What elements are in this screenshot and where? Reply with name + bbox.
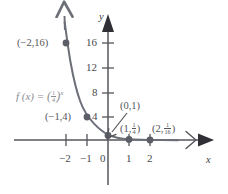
label-point-1-quarter: (1,14) bbox=[120, 122, 140, 135]
y-tick-label-4: 4 bbox=[92, 111, 98, 122]
x-tick-label-0: 0 bbox=[100, 153, 106, 164]
fraction-one-sixteenth: 116 bbox=[164, 122, 171, 135]
x-tick-label-neg1: −1 bbox=[80, 153, 92, 164]
label-point-2-suffix: ) bbox=[172, 123, 176, 134]
label-point-1-prefix: (1, bbox=[120, 123, 131, 134]
exponent: x bbox=[60, 89, 63, 97]
y-tick-label-8: 8 bbox=[92, 87, 98, 98]
point-2-sixteenth bbox=[147, 137, 154, 144]
x-tick-label-2: 2 bbox=[147, 153, 153, 164]
label-point-2-sixteenth: (2,116) bbox=[152, 122, 175, 135]
label-point-2-prefix: (2, bbox=[152, 123, 163, 134]
label-point-neg1-4: (−1,4) bbox=[45, 112, 71, 123]
x-axis-label: x bbox=[206, 155, 211, 166]
function-name: f (x) bbox=[16, 90, 34, 102]
x-tick-label-1: 1 bbox=[126, 153, 132, 164]
fraction-one-quarter: 14 bbox=[132, 122, 136, 135]
point-neg2-16 bbox=[63, 40, 70, 47]
point-neg1-4 bbox=[84, 114, 91, 121]
fraction-denominator: 4 bbox=[132, 129, 136, 135]
x-axis bbox=[14, 132, 214, 149]
x-tick-label-neg2: −2 bbox=[59, 153, 71, 164]
y-tick-label-16: 16 bbox=[86, 37, 97, 48]
y-axis-label: y bbox=[99, 12, 104, 23]
equals-sign: = bbox=[37, 90, 44, 102]
exponential-function-graph: 16 12 8 4 −2 −1 0 1 2 y x (−2,16) (−1,4)… bbox=[0, 0, 228, 194]
point-0-1 bbox=[105, 132, 112, 139]
fraction-denominator: 16 bbox=[164, 129, 171, 135]
label-point-0-1: (0,1) bbox=[120, 101, 140, 112]
label-point-1-suffix: ) bbox=[137, 123, 141, 134]
point-1-quarter bbox=[126, 136, 133, 143]
open-paren: ( bbox=[47, 89, 51, 103]
function-equation-label: f (x) = (14)x bbox=[16, 90, 63, 104]
y-tick-label-12: 12 bbox=[86, 62, 97, 73]
label-point-neg2-16: (−2,16) bbox=[17, 38, 48, 49]
x-axis-solid-arrowhead bbox=[198, 134, 214, 147]
